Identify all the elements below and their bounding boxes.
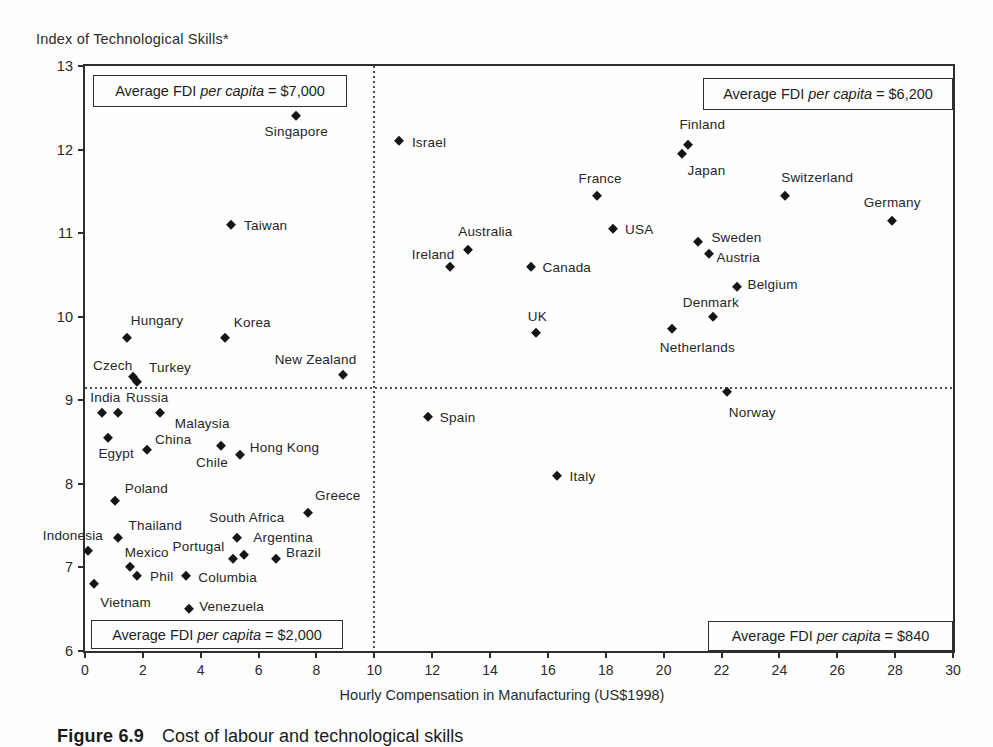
data-point-marker bbox=[693, 236, 703, 246]
data-point-marker bbox=[97, 408, 107, 418]
data-point-marker bbox=[110, 495, 120, 505]
x-tick bbox=[258, 651, 260, 658]
data-point-label: Austria bbox=[717, 250, 760, 265]
data-point-marker bbox=[226, 220, 236, 230]
data-point-label: Switzerland bbox=[781, 170, 853, 185]
y-tick-label: 7 bbox=[65, 559, 73, 575]
data-point-label: Canada bbox=[543, 259, 592, 274]
plot-area: Average FDI per capita = $7,000 Average … bbox=[83, 64, 955, 653]
data-point-marker bbox=[677, 149, 687, 159]
fdi-box-text-italic: per capita bbox=[200, 83, 264, 99]
data-point-marker bbox=[667, 324, 677, 334]
data-point-label: Netherlands bbox=[660, 340, 735, 355]
data-point-marker bbox=[887, 215, 897, 225]
x-tick bbox=[894, 651, 896, 658]
x-axis-title: Hourly Compensation in Manufacturing (US… bbox=[340, 687, 665, 703]
data-point-label: Finland bbox=[679, 117, 725, 132]
data-point-label: Thailand bbox=[129, 518, 182, 533]
data-point-label: China bbox=[155, 432, 191, 447]
data-point-marker bbox=[227, 554, 237, 564]
data-point-marker bbox=[463, 245, 473, 255]
y-tick-label: 8 bbox=[65, 476, 73, 492]
y-axis-title: Index of Technological Skills* bbox=[36, 31, 229, 47]
data-point-label: India bbox=[90, 390, 120, 405]
data-point-marker bbox=[683, 140, 693, 150]
fdi-box-text: = $6,200 bbox=[872, 86, 933, 102]
data-point-label: Israel bbox=[412, 135, 446, 150]
data-point-marker bbox=[83, 545, 93, 555]
x-tick bbox=[547, 651, 549, 658]
x-tick bbox=[778, 651, 780, 658]
x-tick bbox=[605, 651, 607, 658]
fdi-box-top-left: Average FDI per capita = $7,000 bbox=[93, 75, 347, 107]
data-point-label: Argentina bbox=[253, 530, 313, 545]
data-point-marker bbox=[423, 412, 433, 422]
data-point-label: Czech bbox=[93, 358, 132, 373]
y-tick bbox=[78, 566, 85, 568]
data-point-label: Belgium bbox=[747, 277, 797, 292]
fdi-box-text-italic: per capita bbox=[817, 628, 881, 644]
y-tick bbox=[78, 232, 85, 234]
y-tick-label: 6 bbox=[65, 643, 73, 659]
data-point-marker bbox=[125, 562, 135, 572]
data-point-marker bbox=[444, 261, 454, 271]
y-tick-label: 12 bbox=[57, 142, 73, 158]
data-point-marker bbox=[708, 311, 718, 321]
data-point-label: Indonesia bbox=[43, 528, 103, 543]
data-point-label: Turkey bbox=[149, 360, 191, 375]
data-point-marker bbox=[239, 550, 249, 560]
data-point-marker bbox=[608, 224, 618, 234]
data-point-marker bbox=[220, 332, 230, 342]
x-tick-label: 12 bbox=[424, 662, 440, 678]
vertical-reference-line bbox=[373, 66, 375, 651]
x-tick-label: 28 bbox=[887, 662, 903, 678]
figure-caption-label: Figure 6.9 bbox=[57, 726, 144, 746]
data-point-label: Korea bbox=[234, 315, 271, 330]
data-point-marker bbox=[551, 470, 561, 480]
x-tick-label: 30 bbox=[945, 662, 961, 678]
y-tick bbox=[78, 483, 85, 485]
data-point-label: France bbox=[579, 171, 622, 186]
figure-caption-text: Cost of labour and technological skills bbox=[162, 726, 463, 746]
data-point-label: Poland bbox=[125, 481, 168, 496]
y-tick-label: 11 bbox=[58, 225, 73, 241]
x-tick bbox=[431, 651, 433, 658]
x-tick bbox=[84, 651, 86, 658]
y-tick bbox=[78, 316, 85, 318]
fdi-box-text: Average FDI bbox=[112, 627, 197, 643]
x-tick bbox=[200, 651, 202, 658]
fdi-box-bottom-right: Average FDI per capita = $840 bbox=[708, 621, 953, 651]
x-tick bbox=[836, 651, 838, 658]
data-point-marker bbox=[181, 571, 191, 581]
data-point-marker bbox=[113, 533, 123, 543]
x-tick-label: 10 bbox=[367, 662, 383, 678]
fdi-box-top-right: Average FDI per capita = $6,200 bbox=[703, 78, 953, 110]
y-tick bbox=[78, 399, 85, 401]
fdi-box-text: Average FDI bbox=[115, 83, 200, 99]
data-point-label: South Africa bbox=[209, 510, 284, 525]
x-tick bbox=[663, 651, 665, 658]
x-tick bbox=[315, 651, 317, 658]
x-tick-label: 18 bbox=[598, 662, 614, 678]
y-tick bbox=[78, 65, 85, 67]
x-tick-label: 4 bbox=[197, 662, 205, 678]
data-point-label: New Zealand bbox=[275, 352, 357, 367]
data-point-label: Chile bbox=[196, 455, 228, 470]
data-point-label: Russia bbox=[126, 390, 168, 405]
data-point-label: Taiwan bbox=[244, 217, 287, 232]
data-point-marker bbox=[113, 408, 123, 418]
fdi-box-text: = $2,000 bbox=[261, 627, 322, 643]
data-point-marker bbox=[394, 136, 404, 146]
x-tick bbox=[373, 651, 375, 658]
x-tick-label: 16 bbox=[540, 662, 556, 678]
data-point-label: Singapore bbox=[265, 124, 328, 139]
data-point-marker bbox=[525, 261, 535, 271]
y-tick bbox=[78, 650, 85, 652]
y-tick-label: 10 bbox=[57, 309, 73, 325]
data-point-label: Italy bbox=[570, 468, 596, 483]
data-point-marker bbox=[184, 604, 194, 614]
data-point-label: UK bbox=[528, 309, 547, 324]
x-tick-label: 8 bbox=[313, 662, 321, 678]
data-point-label: Portugal bbox=[173, 539, 225, 554]
